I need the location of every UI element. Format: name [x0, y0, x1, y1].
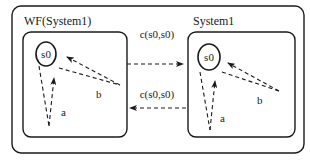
left-loop-b-label: b — [96, 88, 102, 100]
right-loop-a-label: a — [220, 112, 225, 124]
right-state-s0: s0 — [198, 44, 220, 70]
right-system-box — [188, 32, 295, 137]
right-state-label: s0 — [204, 51, 214, 63]
right-system-title: System1 — [193, 14, 234, 28]
left-state-s0: s0 — [36, 42, 56, 66]
channel-backward-label: c(s0,s0) — [140, 88, 175, 101]
left-loop-a-label: a — [61, 106, 66, 118]
left-system-box — [23, 32, 127, 137]
diagram-canvas: WF(System1) s0 a b c(s0,s0) c(s0,s0) Sys… — [0, 0, 310, 161]
left-loop-b: b — [59, 57, 120, 100]
channel-backward: c(s0,s0) — [130, 88, 186, 108]
left-loop-a: a — [39, 66, 66, 126]
left-state-label: s0 — [41, 48, 51, 60]
right-loop-b: b — [222, 63, 279, 106]
channel-forward-label: c(s0,s0) — [140, 28, 175, 41]
right-loop-a: a — [200, 72, 225, 130]
left-system-title: WF(System1) — [24, 14, 91, 28]
right-loop-b-label: b — [257, 94, 263, 106]
channel-forward: c(s0,s0) — [127, 28, 183, 64]
